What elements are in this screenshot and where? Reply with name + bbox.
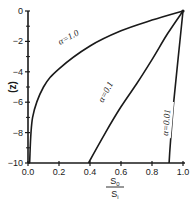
- y-axis-title: (z): [8, 81, 19, 93]
- chart: 0−2−4−6−8−100.00.20.40.60.81.0(z)S0Si α=…: [0, 0, 191, 201]
- x-tick-label: 0.2: [53, 167, 66, 177]
- x-tick-label: 0.4: [84, 167, 97, 177]
- x-tick-label: 1.0: [177, 167, 190, 177]
- y-tick-label: −10: [8, 158, 23, 168]
- convergence-point: [181, 9, 184, 12]
- labels: α=1.0α=0.1α=0.01: [54, 9, 184, 138]
- y-tick-label: 0: [18, 6, 23, 16]
- x-axis-title-denominator: Si: [111, 189, 118, 200]
- x-tick-label: 0.0: [22, 167, 35, 177]
- curve-alpha-0-01: [169, 11, 183, 163]
- y-tick-label: −8: [13, 128, 23, 138]
- x-axis-title-numerator: S0: [110, 176, 120, 187]
- y-tick-label: −2: [13, 36, 23, 46]
- axes: 0−2−4−6−8−100.00.20.40.60.81.0(z)S0Si: [8, 6, 190, 200]
- x-tick-label: 0.6: [115, 167, 128, 177]
- x-tick-label: 0.8: [146, 167, 159, 177]
- y-tick-label: −6: [13, 97, 23, 107]
- y-tick-label: −4: [13, 67, 23, 77]
